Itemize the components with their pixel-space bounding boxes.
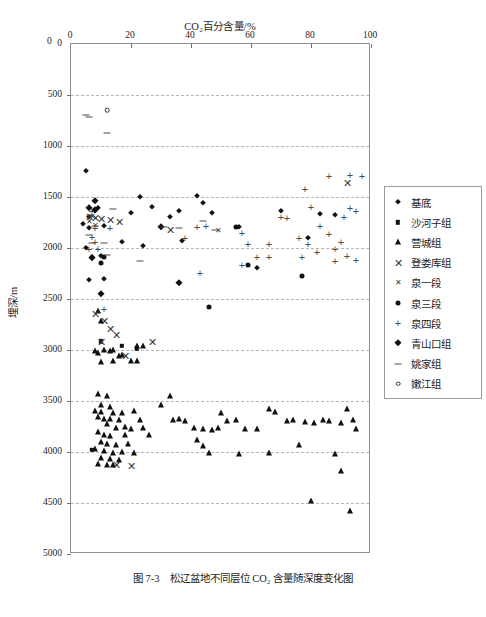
- x-tick-label: 80: [305, 30, 315, 40]
- y-tick: [67, 554, 71, 555]
- y-tick: [67, 350, 71, 351]
- y-tick-label: 5000: [26, 548, 62, 558]
- data-point-diamond-solid: [157, 223, 165, 231]
- data-point-triangle: [101, 431, 107, 437]
- y-tick-label: 1000: [26, 140, 62, 150]
- gridline: [71, 299, 369, 300]
- y-tick-label: 1500: [26, 191, 62, 201]
- legend-marker-triangle-icon: [385, 232, 411, 252]
- data-point-x-small: ✕: [92, 222, 99, 230]
- data-point-plus: +: [302, 184, 308, 195]
- data-point-triangle: [107, 416, 113, 422]
- data-point-plus: +: [278, 212, 284, 223]
- y-tick: [67, 197, 71, 198]
- legend-item-label: 基底: [411, 195, 431, 210]
- data-point-plus: +: [317, 221, 323, 232]
- legend-item-label: 登娄库组: [411, 255, 451, 270]
- x-tick: [131, 44, 132, 48]
- x-tick: [251, 44, 252, 48]
- data-point-triangle: [326, 418, 332, 424]
- data-point-dash: [92, 226, 99, 227]
- data-point-triangle: [233, 417, 239, 423]
- data-point-triangle: [116, 456, 122, 462]
- legend-item-7[interactable]: 青山口组: [385, 333, 481, 353]
- data-point-plus: +: [308, 202, 314, 213]
- data-point-diamond-solid: [175, 279, 183, 287]
- x-tick-label: 60: [245, 30, 255, 40]
- data-point-diamond: [98, 253, 104, 259]
- y-tick-label: 2500: [26, 293, 62, 303]
- data-point-dash: [395, 363, 402, 364]
- gridline: [71, 350, 369, 351]
- data-point-circle: [300, 274, 305, 279]
- data-point-triangle: [134, 342, 140, 348]
- data-point-triangle: [122, 432, 128, 438]
- y-tick-label: 3000: [26, 344, 62, 354]
- data-point-x-large: ✕: [100, 316, 109, 327]
- data-point-dash: [110, 209, 117, 210]
- data-point-diamond: [167, 214, 173, 220]
- y-tick: [67, 401, 71, 402]
- data-point-triangle: [302, 418, 308, 424]
- legend-item-3[interactable]: ✕登娄库组: [385, 253, 481, 273]
- data-point-dash: [86, 116, 93, 117]
- legend-marker-plus-icon: +: [385, 313, 411, 333]
- data-point-open-circle: [105, 108, 110, 113]
- legend-item-8[interactable]: 姚家组: [385, 354, 481, 374]
- data-point-triangle: [119, 409, 125, 415]
- legend-item-9[interactable]: 嫩江组: [385, 374, 481, 394]
- data-point-plus: +: [353, 255, 359, 266]
- data-point-triangle: [200, 425, 206, 431]
- data-point-plus: +: [89, 206, 95, 217]
- data-point-x-large: ✕: [106, 215, 115, 226]
- data-point-open-circle: [396, 381, 401, 386]
- legend-item-2[interactable]: 营城组: [385, 232, 481, 252]
- data-point-triangle: [116, 352, 122, 358]
- data-point-triangle: [128, 425, 134, 431]
- x-tick-label: 40: [185, 30, 195, 40]
- data-point-triangle: [140, 343, 146, 349]
- data-point-plus: +: [95, 244, 101, 255]
- gridline: [71, 197, 369, 198]
- legend-item-0[interactable]: 基底: [385, 192, 481, 212]
- legend-item-5[interactable]: 泉三段: [385, 293, 481, 313]
- y-tick: [67, 299, 71, 300]
- data-point-triangle: [110, 358, 116, 364]
- legend-item-1[interactable]: 沙河子组: [385, 212, 481, 232]
- data-point-triangle: [116, 417, 122, 423]
- data-point-diamond: [194, 193, 200, 199]
- data-point-plus: +: [194, 221, 200, 232]
- legend-item-label: 营城组: [411, 235, 441, 250]
- x-tick: [191, 44, 192, 48]
- data-point-dash: [101, 242, 108, 243]
- data-point-diamond-solid: [88, 254, 96, 262]
- legend-item-4[interactable]: ✕泉一段: [385, 273, 481, 293]
- x-tick-label: 100: [363, 30, 377, 40]
- data-point-plus: +: [332, 256, 338, 267]
- legend: 基底沙河子组营城组✕登娄库组✕泉一段泉三段+泉四段青山口组姚家组嫩江组: [384, 186, 482, 399]
- data-point-triangle: [146, 431, 152, 437]
- data-point-diamond-solid: [85, 204, 93, 212]
- data-point-x-large: ✕: [91, 309, 100, 320]
- data-point-triangle: [182, 418, 188, 424]
- data-point-triangle: [113, 441, 119, 447]
- data-point-plus: +: [182, 232, 188, 243]
- y-tick-label: 0: [26, 38, 62, 48]
- data-point-triangle: [215, 424, 221, 430]
- data-point-triangle: [266, 405, 272, 411]
- data-point-dash: [83, 115, 90, 116]
- data-point-plus: +: [101, 304, 107, 315]
- data-point-plus: +: [92, 222, 98, 233]
- data-point-triangle: [224, 418, 230, 424]
- legend-item-6[interactable]: +泉四段: [385, 313, 481, 333]
- data-point-triangle: [191, 424, 197, 430]
- data-point-plus: +: [266, 252, 272, 263]
- x-tick: [371, 44, 372, 48]
- data-point-diamond: [83, 168, 89, 174]
- data-point-diamond-solid: [97, 290, 105, 298]
- data-point-plus: +: [299, 252, 305, 263]
- data-point-diamond: [176, 208, 182, 214]
- y-tick: [67, 95, 71, 96]
- data-point-x-large: ✕: [121, 351, 130, 362]
- legend-marker-diamond-icon: [385, 192, 411, 212]
